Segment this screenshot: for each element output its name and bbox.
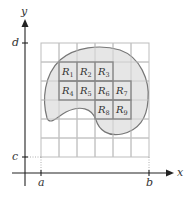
region-partition-diagram: R1 R2 R3 R4 R5 R6 R7 R8 R9 x y a b c d	[0, 0, 195, 200]
tick-label-b: b	[146, 176, 153, 189]
y-axis-arrow-icon	[22, 19, 29, 27]
tick-label-d: d	[12, 36, 19, 49]
x-axis-label: x	[177, 166, 184, 179]
tick-label-c: c	[12, 150, 18, 163]
region-D	[45, 47, 149, 135]
y-axis-label: y	[20, 5, 28, 18]
x-axis-arrow-icon	[166, 170, 174, 177]
guide-lines	[25, 157, 149, 173]
tick-label-a: a	[38, 176, 45, 189]
